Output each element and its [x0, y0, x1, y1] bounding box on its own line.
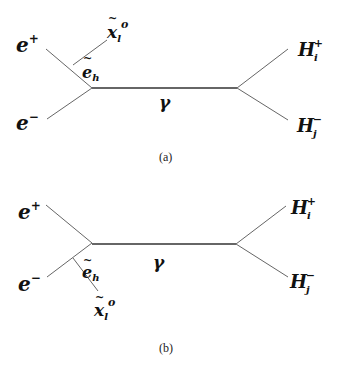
selectron-label: eh [82, 263, 99, 283]
h-plus-line [237, 49, 288, 88]
h-minus-line [236, 244, 288, 277]
photon-label: γ [159, 92, 171, 112]
h-plus-line [236, 206, 286, 244]
h-minus-label: Hj− [289, 269, 315, 295]
caption-a: (a) [159, 150, 172, 164]
e-minus-label: e− [16, 110, 39, 135]
caption-b: (b) [159, 341, 173, 355]
photon-label: γ [153, 252, 165, 272]
e-plus-label: e+ [18, 199, 41, 224]
e-plus-line [46, 205, 92, 243]
h-minus-line [237, 88, 288, 120]
e-minus-label: e− [18, 271, 41, 296]
h-plus-label: Hi+ [290, 195, 316, 221]
diagram-b: e+ e− ~ eh ~ xlo γ Hi+ Hj− (b) [18, 195, 316, 355]
h-minus-label: Hj− [296, 113, 322, 139]
e-plus-label: e+ [16, 32, 39, 57]
diagram-a: e+ e− ~ xlo ~ eh γ Hi+ Hj− (a) [16, 12, 323, 164]
h-plus-label: Hi+ [297, 37, 323, 63]
feynman-diagrams: e+ e− ~ xlo ~ eh γ Hi+ Hj− (a) e+ e− ~ e… [0, 0, 337, 373]
e-minus-line [47, 88, 92, 119]
selectron-label: eh [82, 63, 99, 83]
